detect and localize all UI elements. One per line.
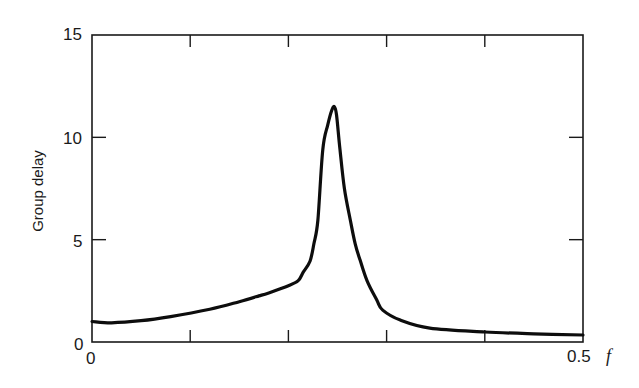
group-delay-chart: [0, 0, 639, 388]
y-tick-label-10: 10: [63, 130, 82, 147]
x-axis-variable: f: [606, 346, 611, 367]
group-delay-curve: [92, 106, 583, 335]
y-tick-label-15: 15: [63, 26, 82, 43]
x-tick-label-0.5: 0.5: [567, 348, 591, 365]
y-tick-label-0: 0: [74, 336, 83, 353]
axis-ticks: [92, 35, 583, 342]
x-tick-label-0: 0: [86, 350, 95, 367]
y-tick-label-5: 5: [73, 233, 82, 250]
plot-frame: [92, 35, 583, 342]
y-axis-title: Group delay: [29, 150, 46, 232]
